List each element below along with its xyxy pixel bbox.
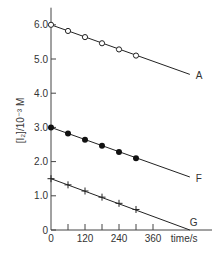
marker-filled-circle xyxy=(99,143,105,149)
y-tick-label: 6.0 xyxy=(34,19,48,30)
x-tick-label: 0 xyxy=(48,233,54,244)
marker-open-circle xyxy=(99,41,104,46)
y-axis-label: [I₂]/10⁻³ M xyxy=(15,98,26,144)
x-axis-label: time/s xyxy=(171,233,198,244)
x-tick-label: 120 xyxy=(77,233,94,244)
series-label-F: F xyxy=(196,173,202,184)
x-tick-label: 360 xyxy=(145,233,162,244)
series-label-G: G xyxy=(190,217,198,228)
marker-open-circle xyxy=(65,28,70,33)
y-tick-label: 1.0 xyxy=(34,190,48,201)
marker-filled-circle xyxy=(116,149,122,155)
marker-open-circle xyxy=(133,53,138,58)
series-label-A: A xyxy=(196,70,203,81)
chart: 01.02.03.04.05.06.00120240360time/s[I₂]/… xyxy=(0,0,219,259)
marker-filled-circle xyxy=(65,131,71,137)
marker-filled-circle xyxy=(133,155,139,161)
marker-filled-circle xyxy=(48,124,54,130)
y-tick-label: 5.0 xyxy=(34,54,48,65)
line-G xyxy=(51,179,190,230)
marker-filled-circle xyxy=(82,137,88,143)
y-tick-label: 4.0 xyxy=(34,88,48,99)
marker-open-circle xyxy=(82,35,87,40)
y-tick-label: 3.0 xyxy=(34,122,48,133)
marker-open-circle xyxy=(48,22,53,27)
x-tick-label: 240 xyxy=(111,233,128,244)
y-tick-label: 2.0 xyxy=(34,156,48,167)
marker-open-circle xyxy=(116,47,121,52)
